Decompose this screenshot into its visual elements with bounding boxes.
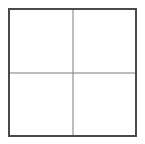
- grid-cell-bottom-left[interactable]: [10, 73, 73, 136]
- grid-cell-top-right[interactable]: [73, 10, 136, 73]
- diagram-canvas: [0, 0, 145, 144]
- grid-frame: [8, 8, 137, 137]
- grid-cell-top-left[interactable]: [10, 10, 73, 73]
- grid-cell-bottom-right[interactable]: [73, 73, 136, 136]
